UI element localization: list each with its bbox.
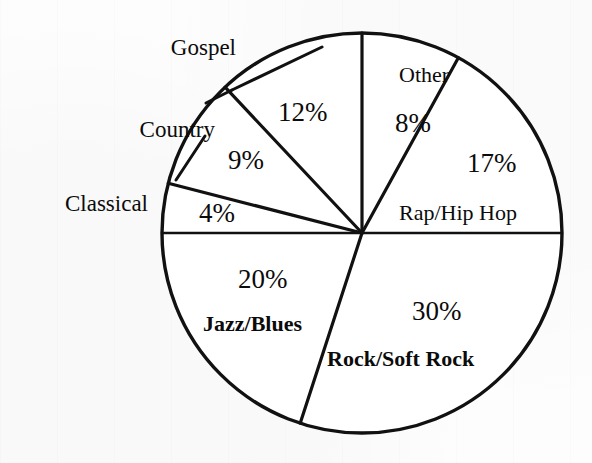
slice-label-rap-name: Rap/Hip Hop xyxy=(399,200,517,225)
pie-chart-svg: Other 8% 17% Rap/Hip Hop 30% Rock/Soft R… xyxy=(0,0,592,463)
slice-label-jazz-pct: 20% xyxy=(238,264,288,294)
slice-label-rock-name: Rock/Soft Rock xyxy=(327,346,475,371)
slice-label-rock-pct: 30% xyxy=(412,296,462,326)
slice-label-classical-name: Classical xyxy=(65,191,148,216)
slice-label-classical-pct: 4% xyxy=(199,198,235,228)
pie-chart-figure: Other 8% 17% Rap/Hip Hop 30% Rock/Soft R… xyxy=(0,0,592,463)
slice-label-other-name: Other xyxy=(399,62,450,87)
slice-label-gospel-pct: 12% xyxy=(278,97,328,127)
slice-label-jazz-name: Jazz/Blues xyxy=(203,311,302,336)
slice-label-rap-pct: 17% xyxy=(467,148,517,178)
slice-label-other-pct: 8% xyxy=(395,108,431,138)
slice-label-country-pct: 9% xyxy=(228,145,264,175)
slice-label-country-name: Country xyxy=(140,117,216,142)
slice-label-gospel-name: Gospel xyxy=(171,35,236,60)
